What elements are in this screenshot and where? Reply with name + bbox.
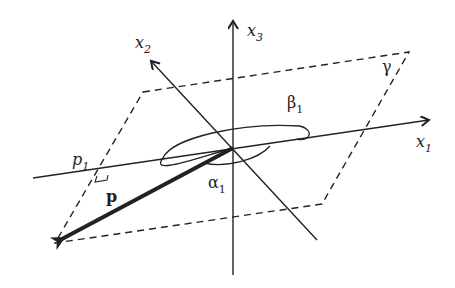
beta1-arc xyxy=(161,125,310,165)
gamma-label: γ xyxy=(382,57,392,76)
diagram-svg: x2 x3 x1 γ β1 α1 p1 p xyxy=(0,0,455,288)
p-label: p xyxy=(106,187,117,206)
right-angle-mark xyxy=(95,175,108,182)
x3-label: x3 xyxy=(247,21,263,44)
vector-diagram: x2 x3 x1 γ β1 α1 p1 p xyxy=(0,0,455,288)
p1-label: p1 xyxy=(72,150,89,173)
beta1-label: β1 xyxy=(287,93,303,116)
alpha1-label: α1 xyxy=(208,173,226,196)
x2-axis xyxy=(151,61,317,240)
x2-label: x2 xyxy=(135,33,151,56)
x1-label: x1 xyxy=(416,132,432,155)
